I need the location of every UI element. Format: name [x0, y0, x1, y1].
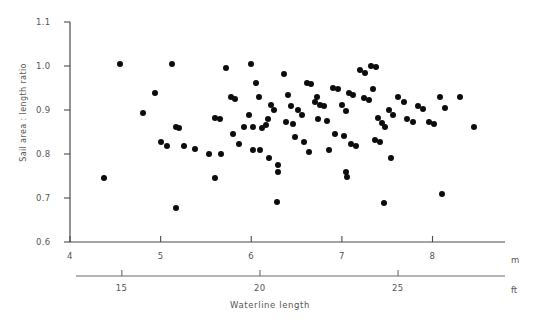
- data-point: [256, 94, 262, 100]
- data-point: [442, 105, 448, 111]
- y-tick-label: 1.1: [36, 17, 50, 27]
- x-tick-label-m: 8: [430, 251, 436, 261]
- y-axis-title: Sail area : length ratio: [19, 38, 28, 188]
- y-tick-label: 0.6: [36, 237, 50, 247]
- data-point: [232, 96, 238, 102]
- y-tick-label: 0.9: [36, 105, 50, 115]
- data-point: [401, 99, 407, 105]
- data-point: [285, 92, 291, 98]
- plot-axes: [0, 0, 540, 332]
- data-point: [250, 147, 256, 153]
- x-tick-label-ft: 25: [392, 283, 403, 293]
- scatter-plot-figure: 0.60.70.80.91.01.1 45678 152025 Sail are…: [0, 0, 540, 332]
- data-point: [410, 119, 416, 125]
- x-tick-label-m: 6: [248, 251, 254, 261]
- x-tick-label-ft: 15: [116, 283, 127, 293]
- data-point: [343, 108, 349, 114]
- data-point: [390, 112, 396, 118]
- data-point: [437, 94, 443, 100]
- data-point: [250, 124, 256, 130]
- data-point: [381, 200, 387, 206]
- data-point: [350, 92, 356, 98]
- x-tick-label-m: 7: [339, 251, 345, 261]
- unit-label-feet: ft: [511, 285, 517, 295]
- x-axis-title: Waterline length: [0, 300, 540, 310]
- y-tick-label: 1.0: [36, 61, 50, 71]
- data-point: [332, 131, 338, 137]
- data-point: [192, 146, 198, 152]
- data-point: [457, 94, 463, 100]
- data-point: [339, 102, 345, 108]
- data-point: [377, 139, 383, 145]
- data-point: [253, 80, 259, 86]
- data-point: [206, 151, 212, 157]
- data-point: [271, 107, 277, 113]
- data-point: [471, 124, 477, 130]
- data-point: [117, 61, 123, 67]
- data-point: [301, 139, 307, 145]
- x-tick-label-ft: 20: [254, 283, 265, 293]
- data-point: [241, 124, 247, 130]
- unit-label-meters: m: [511, 255, 519, 265]
- x-tick-label-m: 5: [158, 251, 164, 261]
- data-point: [140, 110, 146, 116]
- data-point: [173, 205, 179, 211]
- data-point: [292, 134, 298, 140]
- data-point: [395, 94, 401, 100]
- data-point: [266, 155, 272, 161]
- data-point: [283, 119, 289, 125]
- data-point: [158, 139, 164, 145]
- y-tick-label: 0.8: [36, 149, 50, 159]
- data-point: [265, 116, 271, 122]
- data-point: [290, 121, 296, 127]
- data-point: [236, 141, 242, 147]
- data-point: [308, 81, 314, 87]
- data-point: [370, 86, 376, 92]
- y-tick-label: 0.7: [36, 193, 50, 203]
- data-point: [281, 71, 287, 77]
- x-tick-label-m: 4: [67, 251, 73, 261]
- data-point: [164, 143, 170, 149]
